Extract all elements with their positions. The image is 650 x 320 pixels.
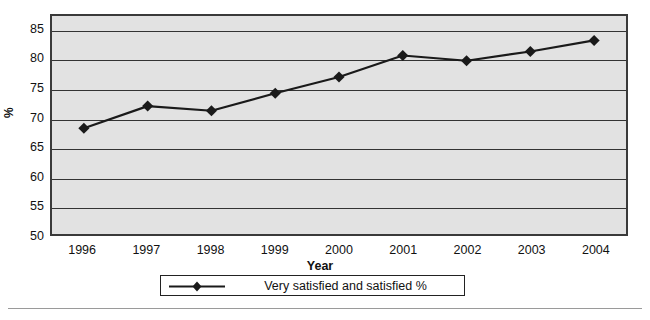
y-tick-label-85: 85 <box>0 23 44 36</box>
x-tick-label-1999: 1999 <box>261 244 289 257</box>
legend-key-diamond-line-marker <box>167 276 227 295</box>
data-point-2002 <box>461 55 472 66</box>
y-tick-label-75: 75 <box>0 82 44 95</box>
x-tick-label-1998: 1998 <box>197 244 225 257</box>
plot-area <box>50 14 628 236</box>
x-tick-label-2002: 2002 <box>454 244 482 257</box>
x-tick-label-1996: 1996 <box>68 244 96 257</box>
x-axis-title-text: Year <box>307 259 333 273</box>
y-tick-label-80: 80 <box>0 52 44 65</box>
x-tick-label-2003: 2003 <box>518 244 546 257</box>
y-tick-label-60: 60 <box>0 171 44 184</box>
bottom-divider <box>8 308 642 309</box>
data-point-2001 <box>397 50 408 61</box>
chart-figure: % 5055606570758085 199619971998199920002… <box>0 0 650 320</box>
y-tick-label-70: 70 <box>0 111 44 124</box>
y-tick-label-55: 55 <box>0 200 44 213</box>
x-tick-label-1997: 1997 <box>132 244 160 257</box>
data-point-1999 <box>270 88 281 99</box>
legend-label: Very satisfied and satisfied % <box>231 276 464 295</box>
data-point-1997 <box>142 101 153 112</box>
x-tick-label-2001: 2001 <box>389 244 417 257</box>
data-point-2000 <box>333 72 344 83</box>
series-line-0 <box>84 40 594 128</box>
plot-inner <box>52 16 626 234</box>
data-point-2004 <box>589 35 600 46</box>
y-tick-label-50: 50 <box>0 230 44 243</box>
data-series-layer <box>52 16 626 234</box>
y-tick-label-65: 65 <box>0 141 44 154</box>
x-axis-title: Year <box>0 259 650 273</box>
data-point-1996 <box>78 123 89 134</box>
x-tick-label-2004: 2004 <box>582 244 610 257</box>
legend-marker-icon <box>167 276 227 297</box>
chart-legend: Very satisfied and satisfied % <box>160 275 465 296</box>
x-tick-label-2000: 2000 <box>325 244 353 257</box>
data-point-1998 <box>206 105 217 116</box>
data-point-2003 <box>525 46 536 57</box>
